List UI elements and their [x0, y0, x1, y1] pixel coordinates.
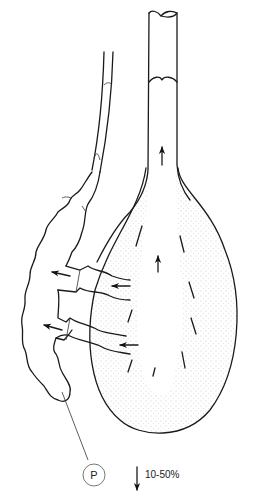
side-duct	[92, 52, 113, 172]
arrow-left-1	[52, 272, 70, 276]
flow-annotation: 10-50%	[137, 467, 180, 490]
label-marker-text: P	[90, 469, 97, 481]
label-pointer-line	[62, 392, 88, 460]
bulb-body	[90, 168, 237, 433]
flow-percentage-text: 10-50%	[145, 469, 180, 480]
arrow-left-3	[44, 325, 62, 330]
diagram-canvas: P 10-50%	[0, 0, 256, 504]
label-marker: P	[83, 464, 105, 486]
